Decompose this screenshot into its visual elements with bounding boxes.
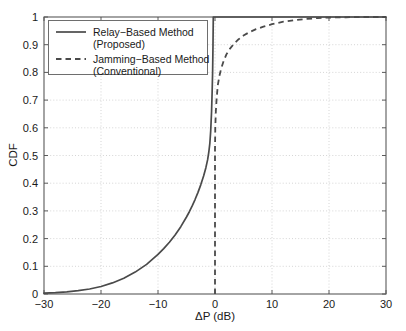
x-tick-label: 10 [266,298,278,310]
y-tick-label: 0.5 [23,150,38,162]
y-tick-label: 0.8 [23,66,38,78]
x-axis-title: ΔP (dB) [195,310,235,322]
y-tick-label: 0.6 [23,122,38,134]
y-tick-label: 0.2 [23,233,38,245]
y-tick-label: 0.3 [23,205,38,217]
y-tick-label: 1 [32,11,38,23]
x-tick-label: −20 [92,298,111,310]
y-tick-label: 0.1 [23,260,38,272]
figure-container: −30−20−100102030 00.10.20.30.40.50.60.70… [0,0,406,331]
legend: Relay−Based Method (Proposed) Jamming−Ba… [49,21,210,77]
cdf-chart: −30−20−100102030 00.10.20.30.40.50.60.70… [0,0,406,331]
x-tick-label: 30 [380,298,392,310]
y-tick-label: 0 [32,288,38,300]
y-tick-label: 0.7 [23,94,38,106]
x-tick-label: −10 [149,298,168,310]
legend-label-jamming-based-line2: (Conventional) [93,65,161,77]
legend-label-relay-based-line2: (Proposed) [93,38,145,50]
y-axis-title: CDF [7,143,19,167]
legend-label-jamming-based-line1: Jamming−Based Method [93,53,210,65]
x-tick-label: 20 [323,298,335,310]
legend-label-relay-based-line1: Relay−Based Method [93,26,194,38]
y-tick-label: 0.4 [23,177,38,189]
y-tick-label: 0.9 [23,39,38,51]
x-tick-label: 0 [212,298,218,310]
